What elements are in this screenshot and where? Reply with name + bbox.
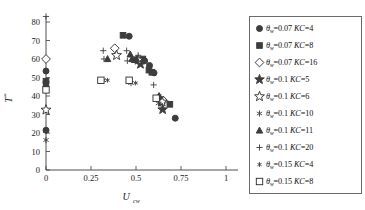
plot-svg: 00.250.50.75101020304050607080 UcwT* [0,0,240,210]
data-point [149,70,155,76]
open-star-icon [253,90,266,103]
data-point [255,91,265,100]
legend-item-label: θw=0.15 KC=8 [266,177,313,186]
data-point [257,43,263,49]
filled-star-icon [253,73,266,86]
x-axis-title-subscript: cw [133,198,140,204]
data-point [255,58,264,67]
y-tick-label: 30 [32,110,41,120]
legend-item-5[interactable]: θw=0.1 KC=10 [253,105,359,122]
legend-item-9[interactable]: θw=0.15 KC=8 [253,173,359,190]
data-point [110,44,119,53]
legend-item-7[interactable]: θw=0.1 KC=20 [253,139,359,156]
data-point [257,26,263,32]
y-tick-label: 20 [32,128,41,138]
data-point [43,137,48,143]
y-tick-label: 50 [32,73,41,83]
series-8 [105,78,162,107]
y-axis-title: T* [2,93,14,103]
legend-item-label: θw=0.07 KC=8 [266,41,313,50]
data-point [98,77,104,83]
data-point [124,58,130,64]
y-tick-label: 40 [32,91,41,101]
data-point [167,102,173,108]
x-tick-label: 0.25 [84,173,99,183]
y-tick-label: 60 [32,54,41,64]
x-tick-label: 1 [224,173,228,183]
legend-item-label: θw=0.1 KC=10 [266,109,313,118]
legend-item-label: θw=0.15 KC=4 [266,160,313,169]
data-point [126,77,132,83]
axis-tick-labels: 00.250.50.75101020304050607080 [32,17,229,183]
data-point [100,48,106,54]
data-point [105,78,109,83]
filled-triangle-icon [253,124,266,137]
data-point [256,178,262,184]
filled-square-icon [253,39,266,52]
x-axis-title: U [122,191,130,202]
x-tick-label: 0.75 [174,173,189,183]
data-point [153,95,159,101]
series-5 [43,77,161,143]
scatter-plot: 00.250.50.75101020304050607080 UcwT* [0,0,240,210]
data-point [43,68,49,74]
y-tick-label: 80 [32,17,41,27]
y-tick-label: 0 [36,165,40,175]
series-9 [43,77,160,101]
legend-item-label: θw=0.1 KC=6 [266,92,309,101]
legend-item-label: θw=0.1 KC=5 [266,75,309,84]
legend-item-2[interactable]: θw=0.07 KC=16 [253,54,359,71]
legend-item-1[interactable]: θw=0.07 KC=8 [253,37,359,54]
y-tick-label: 10 [32,147,41,157]
data-point [255,75,265,84]
data-point [256,144,262,150]
axis-ticks [46,22,226,170]
y-tick-label: 70 [32,36,41,46]
axis-titles: UcwT* [2,93,140,204]
plus-icon [253,141,266,154]
open-square-icon [253,175,266,188]
data-point [257,110,262,116]
data-point [151,82,157,88]
data-point [134,81,138,86]
data-point [43,87,49,93]
data-point [42,55,51,64]
chart-root: 00.250.50.75101020304050607080 UcwT* θw=… [0,0,365,210]
data-point [43,13,49,19]
legend-item-label: θw=0.07 KC=16 [266,58,317,67]
legend-box: θw=0.07 KC=4θw=0.07 KC=8θw=0.07 KC=16θw=… [249,16,362,194]
x-tick-label: 0 [44,173,48,183]
small-asterisk-icon [253,158,266,171]
data-point [120,33,126,39]
legend-item-label: θw=0.1 KC=20 [266,143,313,152]
data-point [256,127,262,133]
legend-item-8[interactable]: θw=0.15 KC=4 [253,156,359,173]
axes [46,16,238,170]
legend-item-0[interactable]: θw=0.07 KC=4 [253,20,359,37]
legend-item-label: θw=0.1 KC=11 [266,126,313,135]
data-points [41,13,178,143]
legend-item-4[interactable]: θw=0.1 KC=6 [253,88,359,105]
legend-item-3[interactable]: θw=0.1 KC=5 [253,71,359,88]
x-tick-label: 0.5 [131,173,142,183]
asterisk-icon [253,107,266,120]
data-point [126,33,132,39]
legend-item-label: θw=0.07 KC=4 [266,24,313,33]
data-point [257,162,261,167]
y-axis-title-star: * [2,93,10,97]
open-diamond-icon [253,56,266,69]
legend-item-6[interactable]: θw=0.1 KC=11 [253,122,359,139]
filled-circle-icon [253,22,266,35]
data-point [172,115,178,121]
